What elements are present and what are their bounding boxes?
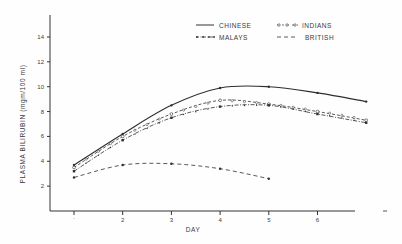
y-tick-label: 2: [41, 183, 45, 189]
dot-marker-icon: [268, 177, 270, 179]
dot-marker-icon: [280, 106, 281, 107]
dot-marker-icon: [213, 36, 215, 38]
dot-marker-icon: [134, 133, 135, 134]
series-indians: [73, 99, 368, 169]
dot-marker-icon: [305, 111, 306, 112]
square-marker-icon: [365, 122, 367, 124]
circle-marker-icon: [170, 113, 173, 116]
circle-marker-icon: [353, 116, 355, 118]
square-marker-icon: [170, 117, 172, 119]
circle-marker-icon: [182, 109, 184, 111]
legend: CHINESE INDIANS MALAYS BRITISH: [196, 22, 334, 41]
legend-label-british: BRITISH: [305, 34, 334, 41]
series-line: [74, 100, 366, 168]
dot-marker-icon: [170, 104, 172, 106]
series-line: [74, 86, 366, 165]
series-line: [74, 163, 269, 178]
legend-label-chinese: CHINESE: [219, 22, 252, 29]
circle-marker-icon: [207, 102, 209, 104]
dot-marker-icon: [159, 122, 160, 123]
bilirubin-line-chart: 2468101214 ˈ23456 DAY PLASMA BILIRUBIN (…: [0, 0, 402, 244]
circle-marker-icon: [365, 119, 368, 122]
square-marker-icon: [316, 113, 318, 115]
legend-item-indians: INDIANS: [277, 22, 332, 29]
dot-marker-icon: [244, 105, 245, 106]
dot-marker-icon: [73, 176, 75, 178]
dot-marker-icon: [195, 111, 196, 112]
dot-marker-icon: [232, 105, 233, 106]
dot-marker-icon: [219, 87, 221, 89]
series-malays: [73, 104, 368, 172]
square-marker-icon: [122, 139, 124, 141]
y-axis-title: PLASMA BILIRUBIN (mgm/100 ml): [19, 65, 27, 184]
x-tick-label: 3: [170, 217, 174, 223]
x-tick-label: 2: [121, 217, 125, 223]
dot-marker-icon: [208, 36, 210, 38]
axes: 2468101214 ˈ23456 DAY PLASMA BILIRUBIN (…: [19, 15, 387, 233]
circle-marker-icon: [121, 135, 124, 138]
circle-marker-icon: [97, 150, 99, 152]
circle-marker-icon: [146, 124, 148, 126]
y-tick-label: 6: [41, 133, 45, 139]
dot-marker-icon: [85, 162, 86, 163]
y-tick-label: 8: [41, 109, 45, 115]
x-tick-label: ˈ: [73, 217, 75, 223]
circle-marker-icon: [316, 110, 319, 113]
legend-item-malays: MALAYS: [196, 34, 248, 41]
circle-marker-icon: [134, 129, 136, 131]
dot-marker-icon: [146, 128, 147, 129]
series-british: [73, 163, 270, 180]
y-tick-label: 12: [37, 59, 44, 65]
dot-marker-icon: [365, 100, 367, 102]
circle-marker-icon: [219, 99, 222, 102]
legend-item-british: BRITISH: [277, 34, 334, 41]
dot-marker-icon: [110, 147, 111, 148]
dot-marker-icon: [170, 163, 172, 165]
dot-marker-icon: [341, 117, 342, 118]
y-tick-label: 4: [41, 158, 45, 164]
circle-marker-icon: [278, 24, 280, 26]
circle-marker-icon: [256, 101, 258, 103]
circle-marker-icon: [304, 108, 306, 110]
dot-marker-icon: [268, 86, 270, 88]
dot-marker-icon: [196, 36, 198, 38]
y-axis-ticks: 2468101214: [37, 34, 50, 189]
circle-marker-icon: [329, 112, 331, 114]
circle-marker-icon: [286, 24, 288, 26]
circle-marker-icon: [231, 100, 233, 102]
dot-marker-icon: [122, 164, 124, 166]
legend-label-malays: MALAYS: [219, 34, 248, 41]
series-line: [74, 105, 366, 172]
x-tick-label: 5: [267, 217, 271, 223]
circle-marker-icon: [158, 118, 160, 120]
x-tick-label: 6: [316, 217, 320, 223]
circle-marker-icon: [243, 101, 245, 103]
square-marker-icon: [268, 104, 270, 106]
circle-marker-icon: [109, 142, 111, 144]
y-tick-label: 10: [37, 84, 44, 90]
legend-item-chinese: CHINESE: [196, 22, 252, 29]
x-axis-ticks: ˈ23456: [73, 211, 320, 223]
dot-marker-icon: [329, 115, 330, 116]
y-tick-label: 14: [37, 34, 44, 40]
dot-marker-icon: [98, 155, 99, 156]
dot-marker-icon: [183, 114, 184, 115]
circle-marker-icon: [195, 106, 197, 108]
series-group: [73, 86, 368, 180]
dot-marker-icon: [353, 119, 354, 120]
square-marker-icon: [73, 170, 75, 172]
circle-marker-icon: [85, 158, 87, 160]
dot-marker-icon: [219, 168, 221, 170]
circle-marker-icon: [294, 24, 296, 26]
circle-marker-icon: [280, 104, 282, 106]
x-axis-title: DAY: [186, 226, 201, 233]
series-chinese: [73, 86, 368, 167]
dot-marker-icon: [292, 109, 293, 110]
dot-marker-icon: [202, 36, 204, 38]
legend-label-indians: INDIANS: [302, 22, 332, 29]
dot-marker-icon: [207, 108, 208, 109]
square-marker-icon: [219, 105, 221, 107]
dot-marker-icon: [316, 92, 318, 94]
x-tick-label: 4: [218, 217, 222, 223]
dot-marker-icon: [256, 105, 257, 106]
